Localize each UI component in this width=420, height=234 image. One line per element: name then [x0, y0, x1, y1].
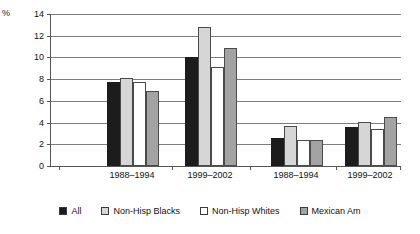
plot-area: [50, 14, 401, 167]
bar: [371, 129, 384, 166]
x-axis-label: 1988–1994: [273, 170, 318, 180]
bar: [133, 82, 146, 166]
legend-label: Mexican Am: [312, 206, 361, 216]
bar: [224, 48, 237, 166]
legend-item: Non-Hisp Whites: [200, 206, 280, 216]
bar: [120, 78, 133, 166]
legend-swatch-mam: [300, 207, 308, 215]
gridline: [51, 166, 401, 167]
legend-item: Mexican Am: [300, 206, 361, 216]
y-tick-label: 8: [14, 74, 44, 84]
x-axis-label: 1999–2002: [187, 170, 232, 180]
bar: [211, 67, 224, 166]
y-tick-label: 12: [14, 31, 44, 41]
bar: [185, 57, 198, 166]
x-tick-mark: [250, 166, 251, 170]
legend-swatch-all: [59, 207, 67, 215]
legend-swatch-nhb: [101, 207, 109, 215]
bar: [271, 138, 284, 166]
bar: [358, 122, 371, 167]
bar: [107, 82, 120, 166]
legend-item: All: [59, 206, 81, 216]
bar: [297, 140, 310, 166]
x-tick-mark: [59, 166, 60, 170]
legend-item: Non-Hisp Blacks: [101, 206, 180, 216]
legend-swatch-nhw: [200, 207, 208, 215]
bar: [310, 140, 323, 166]
y-tick-label: 10: [14, 52, 44, 62]
x-tick-mark: [172, 166, 173, 170]
y-axis-tick-labels: 14121086420: [14, 0, 44, 234]
y-tick-label: 4: [14, 118, 44, 128]
legend-label: All: [71, 206, 81, 216]
bar: [198, 27, 211, 166]
y-tick-label: 0: [14, 161, 44, 171]
chart-legend: AllNon-Hisp BlacksNon-Hisp WhitesMexican…: [0, 206, 420, 216]
y-axis-unit-label: %: [2, 8, 10, 18]
bar: [146, 91, 159, 166]
x-tick-mark: [400, 166, 401, 170]
y-tick-mark: [47, 166, 51, 167]
x-axis-label: 1999–2002: [347, 170, 392, 180]
bar: [284, 126, 297, 166]
legend-label: Non-Hisp Blacks: [113, 206, 180, 216]
bar: [384, 117, 397, 166]
y-tick-label: 14: [14, 9, 44, 19]
bar: [345, 127, 358, 166]
bars-layer: [51, 14, 401, 166]
y-tick-label: 6: [14, 96, 44, 106]
x-tick-mark: [336, 166, 337, 170]
legend-label: Non-Hisp Whites: [212, 206, 280, 216]
x-axis-label: 1988–1994: [109, 170, 154, 180]
bar-chart: % 14121086420 1988–19941999–20021988–199…: [0, 0, 420, 234]
y-tick-label: 2: [14, 139, 44, 149]
